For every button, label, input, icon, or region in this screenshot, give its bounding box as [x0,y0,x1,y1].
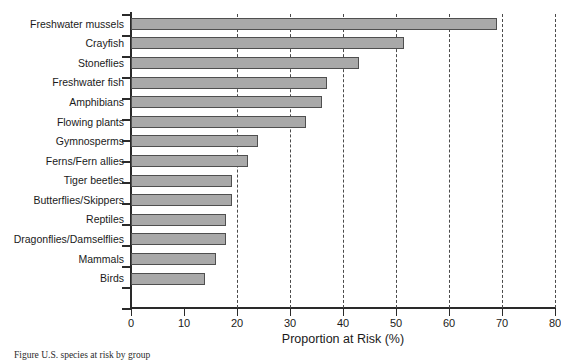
category-label: Freshwater mussels [0,14,124,34]
x-tick [290,309,291,316]
gridline-80 [555,14,556,308]
bar [131,77,327,89]
category-label: Tiger beetles [0,171,124,191]
bar-row [131,132,555,152]
x-tick-label: 40 [337,317,349,330]
category-label: Butterflies/Skippers [0,190,124,210]
category-label: Reptiles [0,210,124,230]
x-tick-label: 60 [443,317,455,330]
bar-row [131,53,555,73]
category-label: Mammals [0,249,124,269]
category-label: Gymnosperms [0,132,124,152]
category-label: Dragonflies/Damselflies [0,230,124,250]
x-axis-tick-labels: 01020304050607080 [131,317,555,331]
x-tick [237,309,238,316]
bar [131,57,359,69]
category-label: Birds [0,269,124,289]
x-axis-title: Proportion at Risk (%) [131,332,555,346]
bar [131,253,216,265]
bar-row [131,190,555,210]
x-tick [184,309,185,316]
bar-row [131,171,555,191]
bar [131,194,232,206]
bar-row [131,151,555,171]
x-tick [396,309,397,316]
x-tick-label: 20 [231,317,243,330]
category-label: Amphibians [0,92,124,112]
bar [131,96,322,108]
category-label: Flowing plants [0,112,124,132]
x-tick [502,309,503,316]
bar-row [131,210,555,230]
x-tick-label: 10 [178,317,190,330]
bar-row [131,34,555,54]
bar-row [131,230,555,250]
x-axis-ticks [131,309,555,317]
category-label: Ferns/Fern allies [0,151,124,171]
bar-row [131,73,555,93]
plot-area [131,14,555,308]
x-tick-label: 80 [549,317,561,330]
x-tick [555,309,556,316]
bar [131,135,258,147]
figure-caption: Figure U.S. species at risk by group [14,350,559,360]
x-tick-label: 30 [284,317,296,330]
x-tick-label: 0 [128,317,134,330]
bar [131,233,226,245]
x-tick-label: 70 [496,317,508,330]
x-tick [131,309,132,316]
category-label: Crayfish [0,34,124,54]
bar [131,214,226,226]
bar [131,273,205,285]
bar [131,18,497,30]
bar [131,37,404,49]
category-label: Freshwater fish [0,73,124,93]
x-tick-label: 50 [390,317,402,330]
bar [131,116,306,128]
x-tick [343,309,344,316]
bar [131,155,248,167]
bar-row [131,92,555,112]
bar [131,175,232,187]
category-label: Stoneflies [0,53,124,73]
bar-row [131,112,555,132]
bar-row [131,249,555,269]
category-axis-labels: Freshwater musselsCrayfishStonefliesFres… [0,14,124,308]
bar-row [131,14,555,34]
x-tick [449,309,450,316]
bar-row [131,269,555,289]
